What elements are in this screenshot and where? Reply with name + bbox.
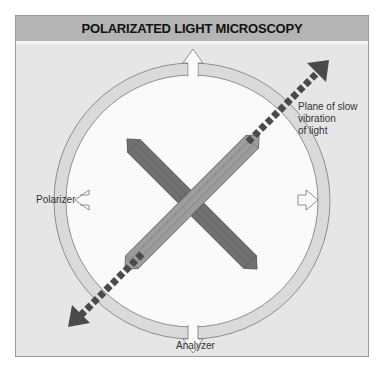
plane-label: Plane of slow vibration of light [298,101,357,137]
microscopy-diagram [0,0,379,368]
analyzer-label: Analyzer [176,340,215,352]
polarizer-label: Polarizer [36,194,75,206]
